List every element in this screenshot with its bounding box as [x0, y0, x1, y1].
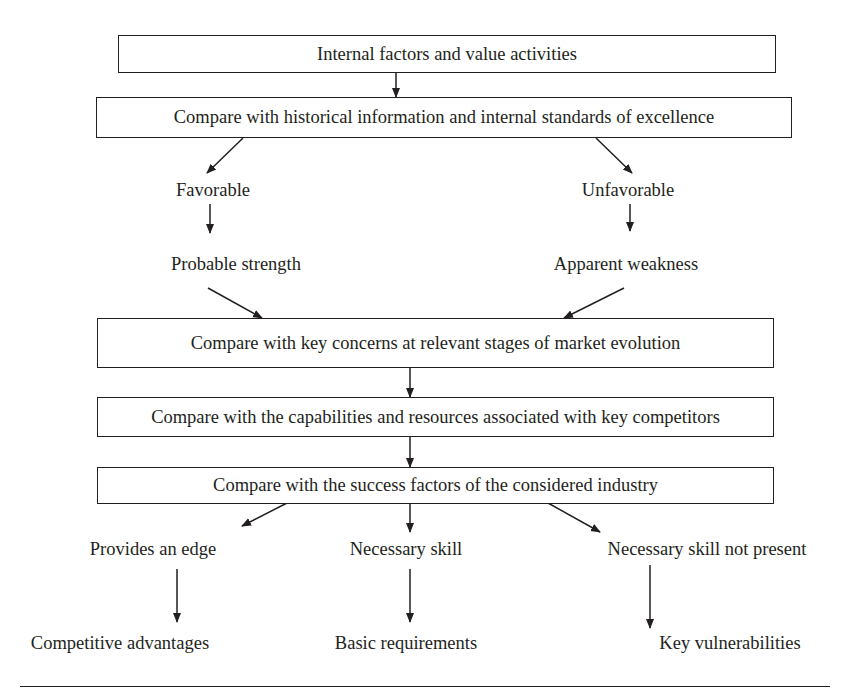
arrow-to-unfavorable	[596, 138, 632, 173]
arrow-to-provides-edge	[242, 503, 287, 526]
label-necessary-skill: Necessary skill	[350, 538, 463, 560]
arrow-to-skill-not-present	[548, 503, 600, 532]
arrow-to-favorable	[207, 138, 243, 173]
arrow-strength-to-market	[208, 288, 262, 318]
bottom-divider	[20, 686, 830, 687]
label-skill-not-present: Necessary skill not present	[608, 538, 807, 560]
label-provides-edge: Provides an edge	[90, 538, 216, 560]
label-competitive-advantages: Competitive advantages	[31, 632, 209, 654]
label-favorable: Favorable	[176, 179, 250, 201]
label-unfavorable: Unfavorable	[582, 179, 674, 201]
box-text: Internal factors and value activities	[317, 44, 577, 65]
label-key-vulnerabilities: Key vulnerabilities	[659, 632, 800, 654]
box-text: Compare with the capabilities and resour…	[151, 407, 720, 428]
box-text: Compare with historical information and …	[174, 107, 714, 128]
label-apparent-weakness: Apparent weakness	[554, 253, 698, 275]
arrow-weakness-to-market	[564, 288, 624, 318]
box-text: Compare with the success factors of the …	[213, 475, 658, 496]
box-compare-competitors: Compare with the capabilities and resour…	[97, 397, 774, 437]
label-basic-requirements: Basic requirements	[335, 632, 477, 654]
box-compare-historical: Compare with historical information and …	[96, 97, 792, 138]
box-compare-market: Compare with key concerns at relevant st…	[97, 318, 774, 368]
box-internal-factors: Internal factors and value activities	[118, 35, 776, 73]
box-compare-success: Compare with the success factors of the …	[97, 467, 774, 504]
box-text: Compare with key concerns at relevant st…	[191, 333, 681, 354]
label-probable-strength: Probable strength	[171, 253, 301, 275]
